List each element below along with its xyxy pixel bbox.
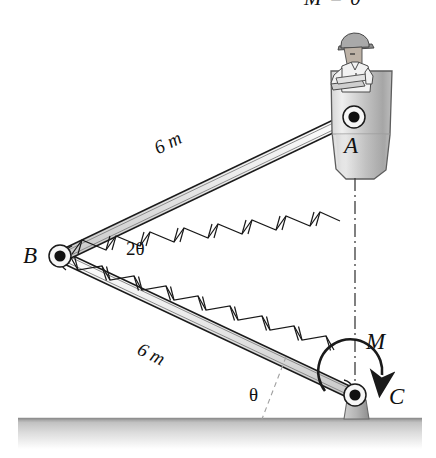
label-point-b: B [23, 244, 37, 267]
label-point-c: C [389, 385, 404, 408]
top-equation-label: M = 0 [304, 0, 362, 9]
theta-reference-line [262, 357, 286, 419]
figure-canvas [0, 0, 436, 458]
statics-figure: M = 0 A B C M 2θ θ 6 m 6 m [0, 0, 436, 458]
pin-a [343, 106, 365, 128]
lower-boom-member [61, 250, 357, 400]
pin-b [49, 245, 71, 267]
upper-boom-member [62, 104, 355, 264]
label-angle-2theta: 2θ [126, 239, 145, 258]
worker-figure [331, 33, 374, 92]
label-point-a: A [344, 134, 358, 157]
ground [18, 419, 422, 450]
label-angle-theta: θ [249, 385, 258, 404]
pin-c [344, 384, 369, 419]
label-moment: M [366, 330, 385, 353]
